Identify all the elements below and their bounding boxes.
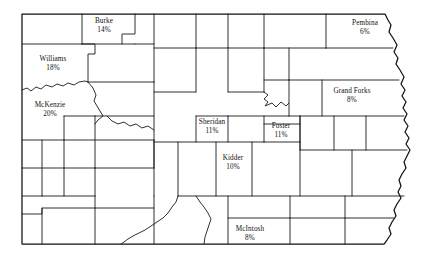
north-dakota-map-svg xyxy=(0,0,425,260)
border-williams-mountrail xyxy=(82,44,95,82)
border-burleigh-west xyxy=(154,142,178,196)
mckenzie-east-boundary xyxy=(88,82,103,124)
border-lower-row-north xyxy=(22,208,95,214)
border-burke-east xyxy=(122,14,135,44)
state-outline-north-dakota xyxy=(22,14,410,244)
border-rolette-east xyxy=(196,14,228,48)
county-map-figure: Burke 14% Williams 18% Pembina 6% McKenz… xyxy=(0,0,425,260)
missouri-river-north xyxy=(22,81,88,91)
lake-sakakawea-boundary xyxy=(107,116,154,130)
missouri-river-south xyxy=(121,196,178,244)
missouri-river-lower xyxy=(196,196,211,244)
devils-lake-boundary xyxy=(264,92,289,107)
border-renville-east xyxy=(135,14,154,44)
